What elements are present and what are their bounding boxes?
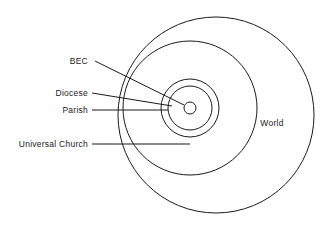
diagram-canvas: BEC Diocese Parish Universal Church Worl… [0, 0, 333, 230]
circle-parish [161, 79, 219, 137]
leader-line-bec [95, 61, 184, 105]
label-bec: BEC [70, 56, 88, 66]
concentric-circles-diagram: BEC Diocese Parish Universal Church Worl… [0, 0, 333, 230]
label-world: World [260, 118, 283, 128]
circle-bec [184, 102, 196, 114]
label-parish: Parish [62, 105, 88, 115]
circle-universal-church [123, 41, 257, 175]
circle-diocese [168, 86, 212, 130]
label-universal-church: Universal Church [19, 139, 88, 149]
label-diocese: Diocese [56, 88, 88, 98]
leader-line-diocese [92, 93, 172, 106]
